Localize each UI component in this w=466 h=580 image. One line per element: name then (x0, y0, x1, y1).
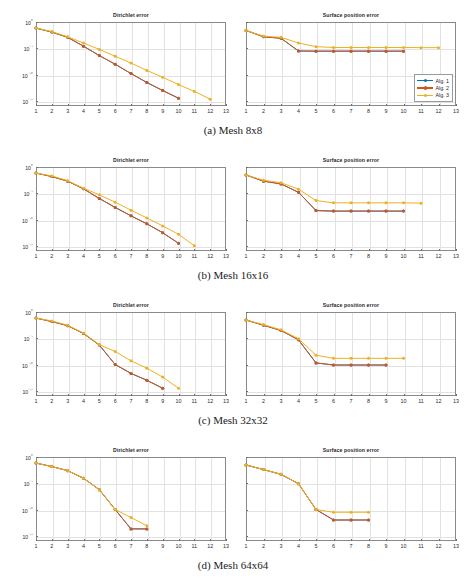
x-tickmark (456, 249, 457, 251)
data-point (177, 387, 180, 390)
chart-title: Surface position error (246, 447, 456, 453)
x-tick-label: 5 (315, 543, 318, 549)
data-point (193, 244, 196, 247)
x-tick-label: 3 (66, 543, 69, 549)
data-point (367, 46, 370, 49)
panel-b: Dirichlet error1234567891011121310⁰10⁻⁵1… (0, 145, 466, 290)
data-point (245, 29, 248, 32)
chart-b-right: Surface position error12345678910111213 (246, 167, 456, 251)
data-point (145, 367, 148, 370)
data-point (385, 364, 388, 367)
x-tick-label: 12 (436, 543, 442, 549)
x-tick-label: 7 (350, 253, 353, 259)
data-point (66, 35, 69, 38)
y-tick-label: 10⁰ (12, 308, 33, 316)
data-point (145, 216, 148, 219)
data-point (114, 508, 117, 511)
y-tick-label: 10⁻⁵ (12, 44, 33, 52)
data-point (98, 193, 101, 196)
panel-caption: (a) Mesh 8x8 (0, 124, 466, 136)
y-tick-label: 10⁰ (12, 163, 33, 171)
x-tick-label: 1 (35, 398, 38, 404)
legend: Alg. 1Alg. 2Alg. 3 (414, 74, 453, 102)
x-tick-label: 12 (436, 253, 442, 259)
x-tick-label: 6 (332, 108, 335, 114)
legend-label: Alg. 3 (433, 92, 449, 98)
data-point (262, 179, 265, 182)
data-point (402, 210, 405, 213)
panel-d: Dirichlet error1234567891011121310⁰10⁻⁵1… (0, 435, 466, 580)
data-point (332, 511, 335, 514)
x-tick-label: 13 (223, 543, 229, 549)
chart-b-left: Dirichlet error1234567891011121310⁰10⁻⁵1… (36, 167, 226, 251)
x-tick-label: 6 (332, 398, 335, 404)
x-tick-label: 7 (130, 543, 133, 549)
x-tick-label: 3 (280, 398, 283, 404)
x-tick-label: 5 (98, 108, 101, 114)
data-point (130, 359, 133, 362)
data-point (262, 35, 265, 38)
data-point (350, 511, 353, 514)
x-tick-label: 10 (176, 543, 182, 549)
data-point (161, 231, 164, 234)
data-point (332, 46, 335, 49)
data-point (161, 387, 164, 390)
x-tick-label: 8 (145, 398, 148, 404)
chart-title: Dirichlet error (36, 157, 226, 163)
x-tick-label: 6 (114, 253, 117, 259)
data-point (332, 50, 335, 53)
legend-swatch-3 (417, 92, 433, 99)
x-tick-label: 11 (418, 543, 424, 549)
series-layer (246, 457, 456, 541)
data-point (315, 45, 318, 48)
data-point (177, 97, 180, 100)
data-point (332, 210, 335, 213)
data-point (35, 27, 38, 30)
data-point (209, 98, 212, 101)
x-tick-label: 7 (130, 253, 133, 259)
data-point (82, 187, 85, 190)
x-tickmark (226, 539, 227, 541)
x-tick-label: 3 (66, 108, 69, 114)
x-tick-label: 3 (66, 253, 69, 259)
data-point (262, 323, 265, 326)
legend-entry: Alg. 1 (417, 77, 449, 84)
data-point (145, 69, 148, 72)
x-tick-label: 9 (161, 253, 164, 259)
data-point (350, 46, 353, 49)
data-point (367, 201, 370, 204)
series-alg-2 (35, 27, 181, 100)
data-point (350, 364, 353, 367)
series-alg-3 (35, 27, 212, 101)
data-point (350, 201, 353, 204)
y-tick-label: 10⁻¹⁵ (12, 387, 33, 395)
data-point (367, 519, 370, 522)
data-point (332, 201, 335, 204)
chart-a-left: Dirichlet error1234567891011121310⁰10⁻⁵1… (36, 22, 226, 106)
data-point (50, 319, 53, 322)
x-tick-label: 9 (385, 543, 388, 549)
legend-label: Alg. 2 (433, 85, 449, 91)
legend-entry: Alg. 3 (417, 92, 449, 99)
data-point (367, 210, 370, 213)
series-alg-3 (245, 463, 371, 513)
x-tick-label: 7 (130, 398, 133, 404)
data-point (50, 174, 53, 177)
x-tick-label: 13 (223, 108, 229, 114)
chart-title: Dirichlet error (36, 302, 226, 308)
x-tick-label: 8 (145, 543, 148, 549)
data-point (177, 233, 180, 236)
x-tick-label: 3 (280, 253, 283, 259)
x-tickmark (226, 394, 227, 396)
panel-a: Dirichlet error1234567891011121310⁰10⁻⁵1… (0, 0, 466, 145)
x-tick-label: 1 (35, 253, 38, 259)
data-point (145, 222, 148, 225)
y-tick-label: 10⁻⁵ (12, 479, 33, 487)
series-layer (36, 22, 226, 106)
x-tick-label: 8 (367, 108, 370, 114)
y-tick-label: 10⁻¹⁵ (12, 97, 33, 105)
data-point (245, 463, 248, 466)
x-tickmark (226, 104, 227, 106)
data-point (315, 354, 318, 357)
x-tick-label: 1 (35, 543, 38, 549)
